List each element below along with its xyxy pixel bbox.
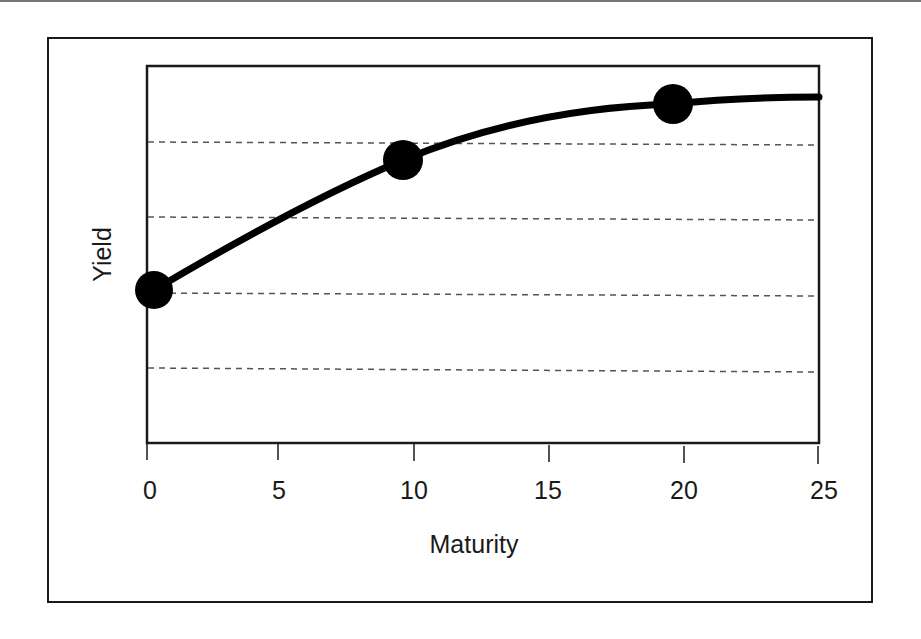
x-tick-label: 0 <box>120 476 180 505</box>
x-ticks <box>147 443 818 464</box>
x-tick-label: 5 <box>249 476 309 505</box>
data-point-marker <box>653 84 693 124</box>
y-axis-label: Yield <box>88 225 117 285</box>
x-tick-label: 15 <box>518 476 578 505</box>
x-axis-label: Maturity <box>374 530 574 559</box>
data-point-marker <box>383 140 423 180</box>
gridline <box>148 293 815 296</box>
x-tick-label: 25 <box>794 476 854 505</box>
plot-area <box>147 66 819 443</box>
gridline <box>148 217 815 220</box>
x-tick-label: 10 <box>384 476 444 505</box>
data-point-marker <box>135 271 173 309</box>
gridlines <box>148 142 815 372</box>
gridline <box>148 142 815 145</box>
yield-curve-line <box>154 97 819 290</box>
x-tick-label: 20 <box>654 476 714 505</box>
gridline <box>148 368 815 372</box>
